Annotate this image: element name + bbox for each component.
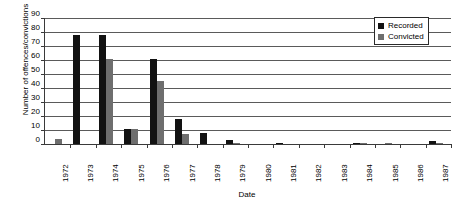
y-tick-label: 80 xyxy=(18,24,40,32)
legend-swatch-icon xyxy=(378,34,384,40)
y-tick-mark xyxy=(41,130,45,131)
y-tick-label: 30 xyxy=(18,94,40,102)
x-tick-label: 1983 xyxy=(340,164,349,182)
bar-group xyxy=(96,18,121,144)
bar-convicted-1974 xyxy=(106,59,113,144)
x-axis-title: Date xyxy=(44,190,450,199)
bar-group xyxy=(350,18,375,144)
bar-recorded-1974 xyxy=(99,35,106,144)
y-tick-label: 10 xyxy=(18,122,40,130)
bar-convicted-1975 xyxy=(131,129,138,144)
y-tick-label: 20 xyxy=(18,108,40,116)
x-tick-mark xyxy=(197,144,198,148)
y-tick-label: 0 xyxy=(18,136,40,144)
y-tick-mark xyxy=(41,32,45,33)
y-tick-mark xyxy=(41,102,45,103)
bar-group xyxy=(197,18,222,144)
x-tick-mark xyxy=(248,144,249,148)
x-tick-label: 1978 xyxy=(213,164,222,182)
chart-legend: Recorded Convicted xyxy=(374,17,429,45)
x-tick-mark xyxy=(96,144,97,148)
y-tick-mark xyxy=(41,46,45,47)
x-tick-mark xyxy=(375,144,376,148)
bar-recorded-1984 xyxy=(353,143,360,144)
bar-recorded-1973 xyxy=(73,35,80,144)
bar-convicted-1979 xyxy=(233,143,240,144)
legend-item-label: Convicted xyxy=(388,32,424,41)
legend-item-recorded: Recorded xyxy=(378,20,424,31)
legend-item-convicted: Convicted xyxy=(378,31,424,42)
bar-group xyxy=(273,18,298,144)
bar-group xyxy=(45,18,70,144)
bar-chart: Number of offences/convictions 908070605… xyxy=(0,0,461,207)
y-tick-mark xyxy=(41,60,45,61)
bar-group xyxy=(223,18,248,144)
x-tick-label: 1977 xyxy=(188,164,197,182)
x-tick-label: 1982 xyxy=(314,164,323,182)
x-tick-label: 1984 xyxy=(365,164,374,182)
x-tick-label: 1981 xyxy=(289,164,298,182)
bar-recorded-1981 xyxy=(276,143,283,144)
bar-group xyxy=(172,18,197,144)
y-tick-label: 70 xyxy=(18,38,40,46)
bar-recorded-1987 xyxy=(429,141,436,144)
bar-convicted-1977 xyxy=(182,134,189,144)
legend-swatch-icon xyxy=(378,23,384,29)
bar-convicted-1984 xyxy=(360,143,367,144)
bar-recorded-1975 xyxy=(124,129,131,144)
bar-recorded-1977 xyxy=(175,119,182,144)
x-tick-label: 1980 xyxy=(264,164,273,182)
x-tick-label: 1975 xyxy=(137,164,146,182)
y-tick-mark xyxy=(41,88,45,89)
legend-item-label: Recorded xyxy=(388,21,423,30)
x-tick-label: 1985 xyxy=(391,164,400,182)
x-tick-mark xyxy=(172,144,173,148)
y-tick-label: 60 xyxy=(18,52,40,60)
x-tick-label: 1973 xyxy=(86,164,95,182)
x-tick-label: 1972 xyxy=(61,164,70,182)
y-tick-label: 40 xyxy=(18,80,40,88)
x-tick-mark xyxy=(426,144,427,148)
x-tick-mark xyxy=(147,144,148,148)
y-tick-mark xyxy=(41,74,45,75)
bar-convicted-1985 xyxy=(385,143,392,144)
y-tick-mark xyxy=(41,144,45,145)
x-tick-label: 1986 xyxy=(416,164,425,182)
bar-group xyxy=(299,18,324,144)
bar-recorded-1976 xyxy=(150,59,157,144)
bar-group xyxy=(147,18,172,144)
x-tick-mark xyxy=(70,144,71,148)
bar-recorded-1978 xyxy=(200,133,207,144)
y-axis-tick-labels: 9080706050403020100 xyxy=(18,14,40,144)
y-tick-label: 90 xyxy=(18,10,40,18)
x-tick-mark xyxy=(299,144,300,148)
x-tick-label: 1979 xyxy=(238,164,247,182)
bar-convicted-1976 xyxy=(157,81,164,144)
y-tick-mark xyxy=(41,116,45,117)
x-tick-mark xyxy=(324,144,325,148)
bar-recorded-1979 xyxy=(226,140,233,144)
x-tick-label: 1987 xyxy=(441,164,450,182)
x-tick-mark xyxy=(121,144,122,148)
bar-group xyxy=(248,18,273,144)
bar-group xyxy=(70,18,95,144)
bar-group xyxy=(324,18,349,144)
y-tick-mark xyxy=(41,18,45,19)
x-tick-mark xyxy=(451,144,452,148)
x-axis-tick-labels: 1972197319741975197619771978197919801981… xyxy=(44,150,450,184)
bar-group xyxy=(121,18,146,144)
x-tick-mark xyxy=(350,144,351,148)
x-tick-label: 1974 xyxy=(111,164,120,182)
x-tick-label: 1976 xyxy=(162,164,171,182)
bar-convicted-1972 xyxy=(55,139,62,144)
bar-group xyxy=(426,18,451,144)
x-tick-mark xyxy=(400,144,401,148)
x-tick-mark xyxy=(273,144,274,148)
x-tick-mark xyxy=(223,144,224,148)
bar-convicted-1987 xyxy=(436,143,443,144)
y-tick-label: 50 xyxy=(18,66,40,74)
